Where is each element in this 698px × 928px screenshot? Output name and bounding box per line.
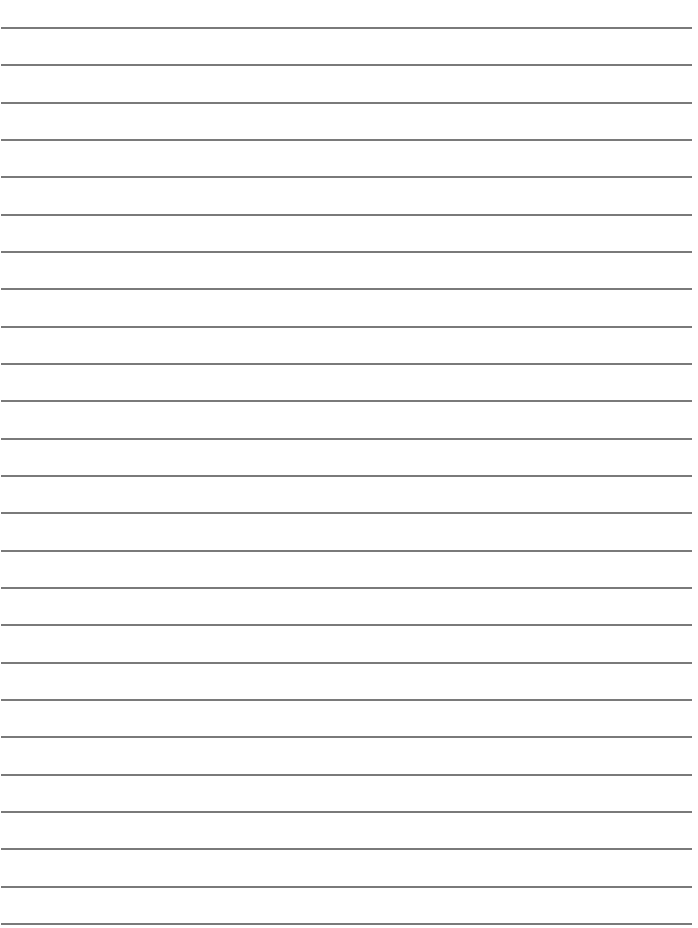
ruled-line — [1, 176, 692, 178]
ruled-line — [1, 214, 692, 216]
ruled-line — [1, 251, 692, 253]
ruled-line — [1, 288, 692, 290]
ruled-line — [1, 699, 692, 701]
ruled-line — [1, 512, 692, 514]
ruled-line — [1, 550, 692, 552]
ruled-line — [1, 400, 692, 402]
ruled-line — [1, 475, 692, 477]
ruled-line — [1, 848, 692, 850]
ruled-line — [1, 326, 692, 328]
ruled-line — [1, 139, 692, 141]
ruled-line — [1, 27, 692, 29]
ruled-line — [1, 102, 692, 104]
lined-paper-page — [0, 0, 698, 928]
ruled-line — [1, 886, 692, 888]
ruled-line — [1, 736, 692, 738]
ruled-line — [1, 64, 692, 66]
ruled-line — [1, 774, 692, 776]
ruled-line — [1, 662, 692, 664]
ruled-line — [1, 811, 692, 813]
ruled-line — [1, 624, 692, 626]
ruled-line — [1, 587, 692, 589]
ruled-line — [1, 438, 692, 440]
ruled-line — [1, 363, 692, 365]
ruled-line — [1, 923, 692, 925]
